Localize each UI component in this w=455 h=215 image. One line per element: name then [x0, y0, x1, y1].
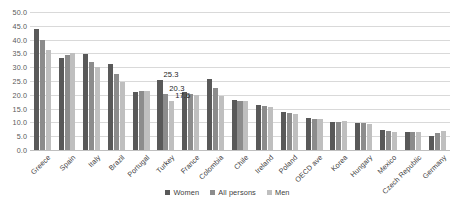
legend-swatch-icon — [165, 190, 170, 195]
legend-label: Men — [275, 188, 290, 197]
y-axis-tick-label: 15.0 — [13, 104, 27, 113]
data-label: 25.3 — [163, 70, 178, 79]
y-axis-tick-label: 5.0 — [17, 132, 27, 141]
legend-label: All persons — [218, 188, 256, 197]
bar-chart: 50.045.040.035.030.025.020.015.010.05.00… — [0, 0, 455, 215]
legend-swatch-icon — [210, 190, 215, 195]
legend-item[interactable]: All persons — [210, 188, 256, 197]
legend-item[interactable]: Women — [165, 188, 199, 197]
x-axis-tick-label: Turkey — [154, 153, 176, 175]
legend-item[interactable]: Men — [267, 188, 290, 197]
x-axis-tick-label: Chile — [232, 153, 250, 171]
x-axis-tick-label: Mexico — [376, 153, 399, 176]
x-axis-tick-label: Korea — [329, 153, 349, 173]
y-axis-tick-label: 35.0 — [13, 49, 27, 58]
x-axis-tick-label: Italy — [86, 153, 102, 169]
y-axis-tick-label: 20.0 — [13, 90, 27, 99]
y-axis-tick-label: 0.0 — [17, 146, 27, 155]
x-axis-tick-label: Portugal — [126, 153, 152, 179]
data-labels-layer: 25.320.317.6 — [30, 12, 450, 150]
x-axis-tick-label: Brazil — [107, 153, 127, 173]
y-axis-tick-label: 50.0 — [13, 8, 27, 17]
x-axis-tick-label: Spain — [58, 153, 78, 173]
x-axis-tick-label: Ireland — [253, 153, 275, 175]
y-axis: 50.045.040.035.030.025.020.015.010.05.00… — [0, 12, 27, 150]
y-axis-tick-label: 10.0 — [13, 118, 27, 127]
y-axis-tick-label: 45.0 — [13, 21, 27, 30]
legend-swatch-icon — [267, 190, 272, 195]
y-axis-tick-label: 30.0 — [13, 63, 27, 72]
legend-label: Women — [173, 188, 199, 197]
y-axis-tick-label: 25.0 — [13, 77, 27, 86]
x-axis-tick-label: Poland — [277, 153, 300, 176]
plot-area: 25.320.317.6 — [30, 12, 450, 150]
x-axis-tick-label: Colombia — [197, 153, 225, 181]
x-axis-tick-label: Germany — [420, 153, 448, 181]
chart-legend: WomenAll personsMen — [0, 188, 455, 197]
x-axis-tick-label: France — [178, 153, 201, 176]
x-axis-tick-label: Hungary — [348, 153, 374, 179]
y-axis-tick-label: 40.0 — [13, 35, 27, 44]
data-label: 17.6 — [175, 91, 190, 100]
x-axis-tick-label: Greece — [29, 153, 52, 176]
